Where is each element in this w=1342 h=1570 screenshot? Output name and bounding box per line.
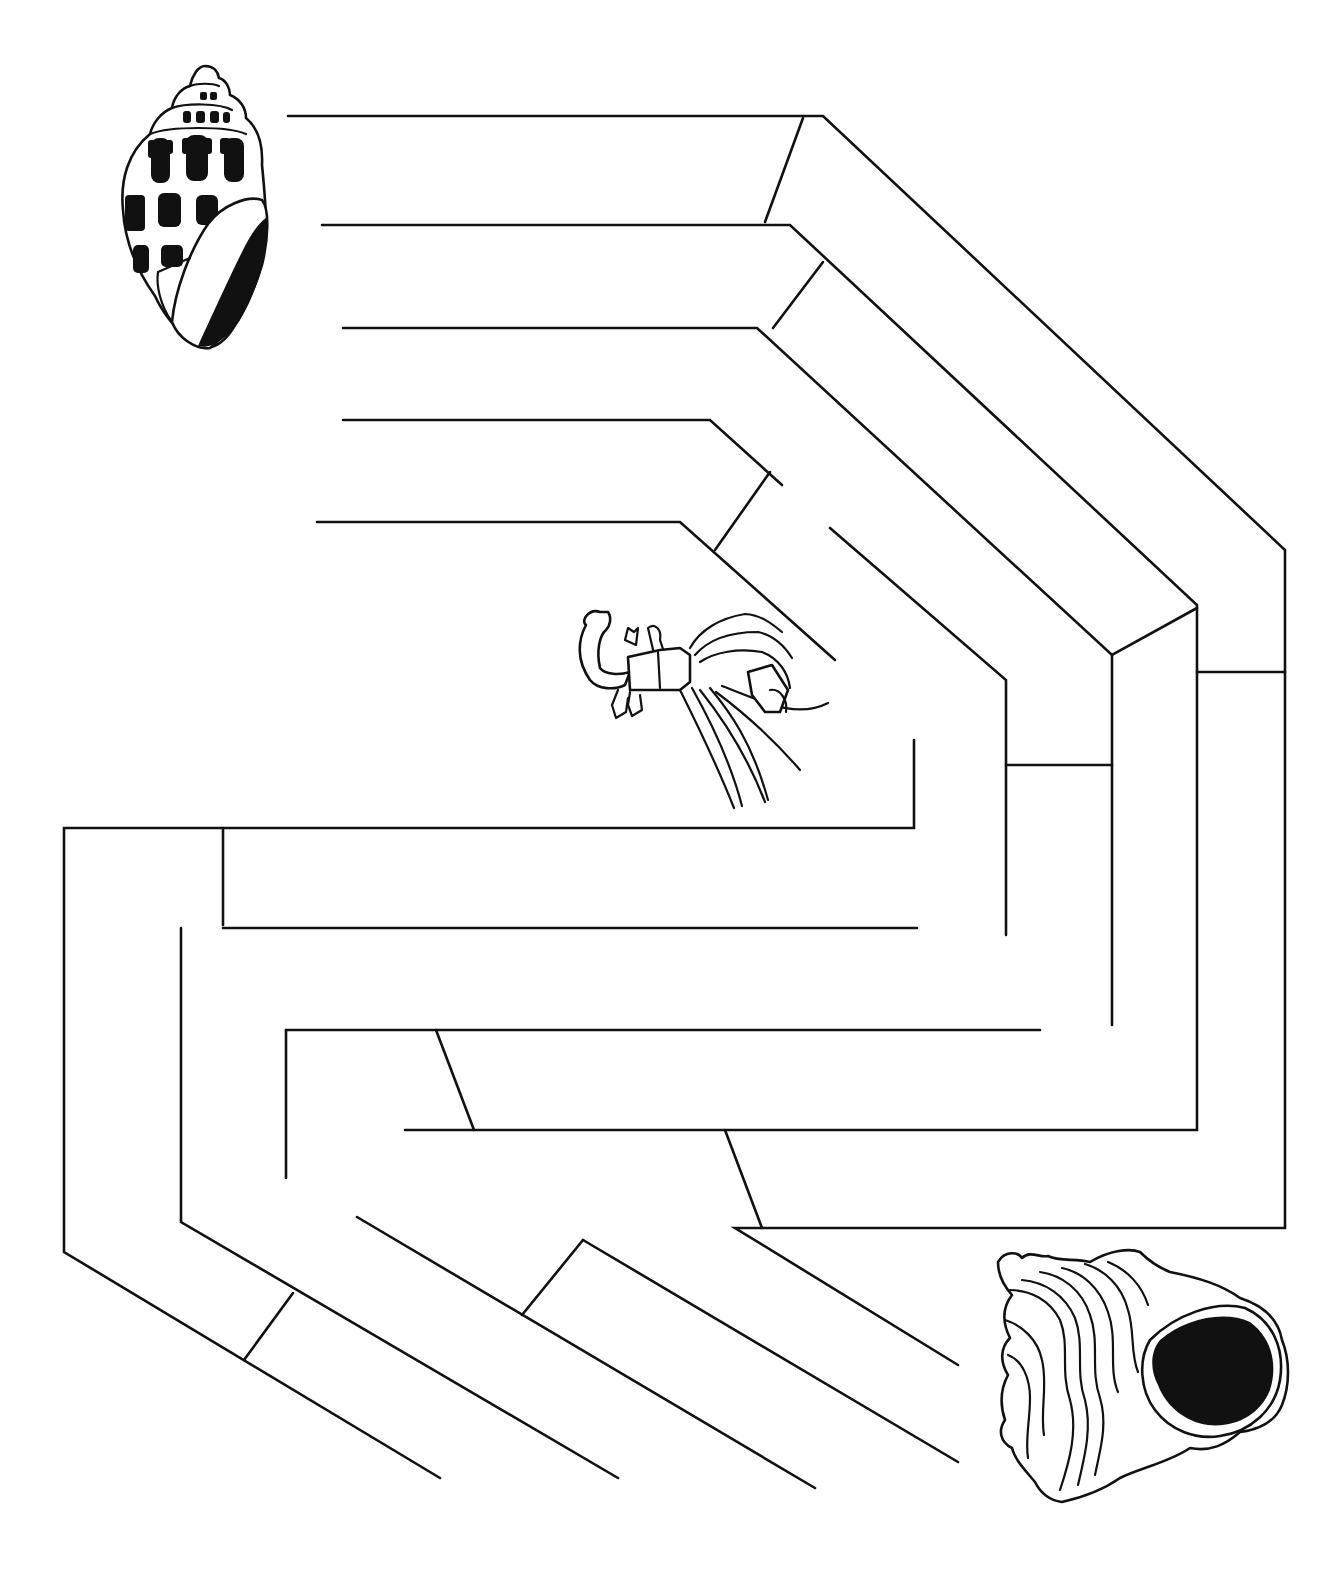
maze-wall (583, 1240, 958, 1462)
maze-wall (715, 472, 770, 550)
murex-shell-icon[interactable] (998, 1250, 1288, 1502)
maze-wall (436, 1030, 474, 1130)
maze-wall (522, 1240, 583, 1315)
spotted-cone-shell-icon[interactable] (122, 66, 267, 348)
maze-wall (343, 420, 782, 485)
maze-wall (244, 1293, 293, 1360)
maze-wall (773, 262, 823, 328)
hermit-crab-icon[interactable] (580, 611, 828, 808)
maze-wall (357, 1217, 815, 1488)
maze-wall (181, 928, 618, 1478)
maze-wall (64, 740, 914, 1478)
maze-wall (317, 522, 835, 660)
maze-wall (830, 528, 1006, 935)
maze-board[interactable] (0, 0, 1342, 1570)
maze-wall (288, 116, 1285, 1365)
maze-wall (343, 328, 1197, 655)
maze-wall (765, 118, 803, 222)
maze-wall (725, 1130, 762, 1228)
